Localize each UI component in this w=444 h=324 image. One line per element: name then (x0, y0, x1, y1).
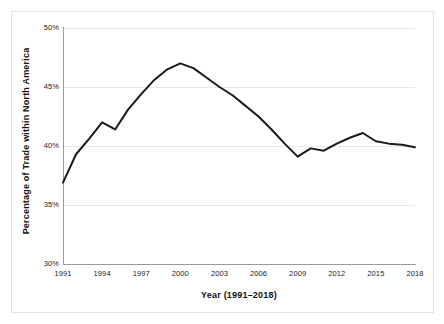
y-axis-title: Percentage of Trade within North America (21, 36, 31, 246)
chart-figure: 30%35%40%45%50% 199119941997200020032006… (0, 0, 444, 324)
data-series-line (0, 0, 444, 324)
x-axis-title: Year (1991–2018) (63, 290, 415, 300)
